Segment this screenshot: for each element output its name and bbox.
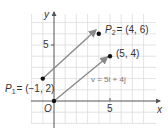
- p2-label: P2= (4, 6): [105, 24, 149, 36]
- p1-label: P1= (−1, 2): [5, 83, 54, 95]
- point-p1: [41, 76, 45, 80]
- point-origin: [52, 99, 56, 103]
- point-tip: [108, 54, 112, 58]
- vector-v-label: v = 5i + 4j: [91, 75, 126, 84]
- p2-sub: 2: [112, 29, 116, 36]
- x-tick-label: 5: [107, 103, 113, 114]
- p1-sub: 1: [12, 88, 16, 95]
- point-p2: [97, 32, 101, 36]
- y-axis-label: y: [43, 9, 50, 20]
- origin-label: O: [44, 103, 52, 114]
- vector-p1-p2: [43, 30, 96, 79]
- p1-coords: = (−1, 2): [17, 83, 55, 94]
- tip-label: (5, 4): [116, 48, 139, 59]
- y-tick-label: 5: [43, 39, 49, 50]
- x-axis-label: x: [156, 104, 163, 115]
- coordinate-plane: y x O 5 5 P1= (−1, 2) P2= (4, 6) (5, 4) …: [0, 0, 168, 136]
- p2-coords: = (4, 6): [117, 24, 149, 35]
